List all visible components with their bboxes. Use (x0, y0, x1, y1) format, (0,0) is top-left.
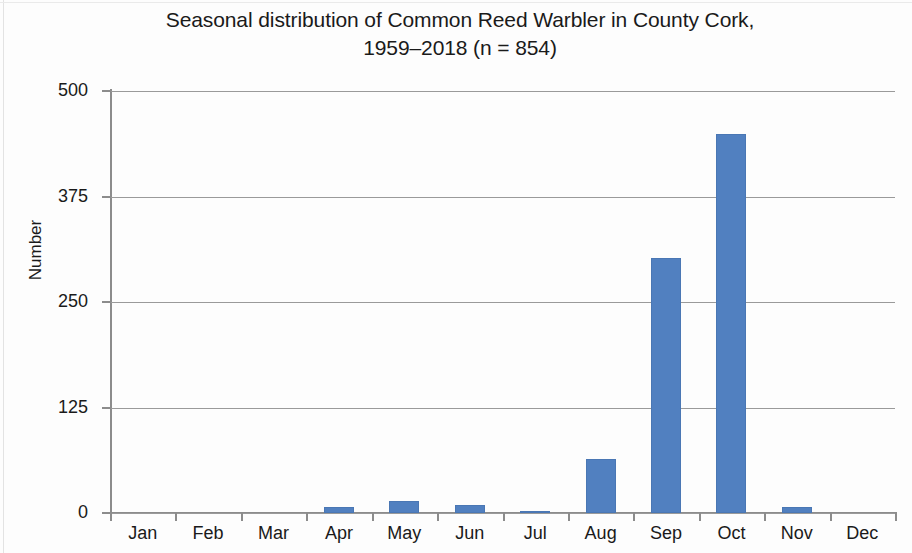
bar-may (389, 501, 419, 513)
x-axis-tick (306, 512, 308, 521)
chart-title-line-1: Seasonal distribution of Common Reed War… (166, 8, 755, 31)
bar-jun (455, 505, 485, 513)
x-axis-tick-label: Dec (822, 523, 902, 544)
scan-edge-left (3, 0, 4, 553)
y-axis-tick-label: 500 (18, 80, 88, 101)
bar-jul (520, 511, 550, 513)
chart-title: Seasonal distribution of Common Reed War… (40, 6, 880, 62)
x-axis-tick (241, 512, 243, 521)
scan-edge-top (0, 2, 912, 3)
x-axis-tick (503, 512, 505, 521)
bar-nov (782, 507, 812, 513)
y-axis-tick-label: 125 (18, 397, 88, 418)
y-axis-tick-label: 375 (18, 186, 88, 207)
y-axis-tick-label: 0 (18, 502, 88, 523)
x-axis-tick (568, 512, 570, 521)
bar-apr (324, 507, 354, 513)
bar-oct (716, 134, 746, 513)
plot-area: 0125250375500 (110, 91, 895, 513)
y-axis-tick-label: 250 (18, 291, 88, 312)
chart-figure: Seasonal distribution of Common Reed War… (0, 0, 912, 553)
x-axis-tick (372, 512, 374, 521)
y-axis-tick (102, 90, 111, 92)
gridline (110, 408, 895, 409)
gridline (110, 302, 895, 303)
gridline (110, 197, 895, 198)
chart-title-line-2: 1959–2018 (n = 854) (40, 34, 880, 62)
x-axis-tick (764, 512, 766, 521)
bar-sep (651, 258, 681, 513)
x-axis-tick (175, 512, 177, 521)
y-axis-title: Number (26, 200, 46, 300)
y-axis-tick (102, 301, 111, 303)
x-axis-tick (633, 512, 635, 521)
bar-aug (586, 459, 616, 513)
y-axis-tick (102, 407, 111, 409)
x-axis-tick (830, 512, 832, 521)
x-axis-tick (895, 512, 897, 521)
gridline (110, 91, 895, 92)
y-axis-tick (102, 196, 111, 198)
x-axis-tick (699, 512, 701, 521)
x-axis-tick (437, 512, 439, 521)
x-axis-tick (110, 512, 112, 521)
